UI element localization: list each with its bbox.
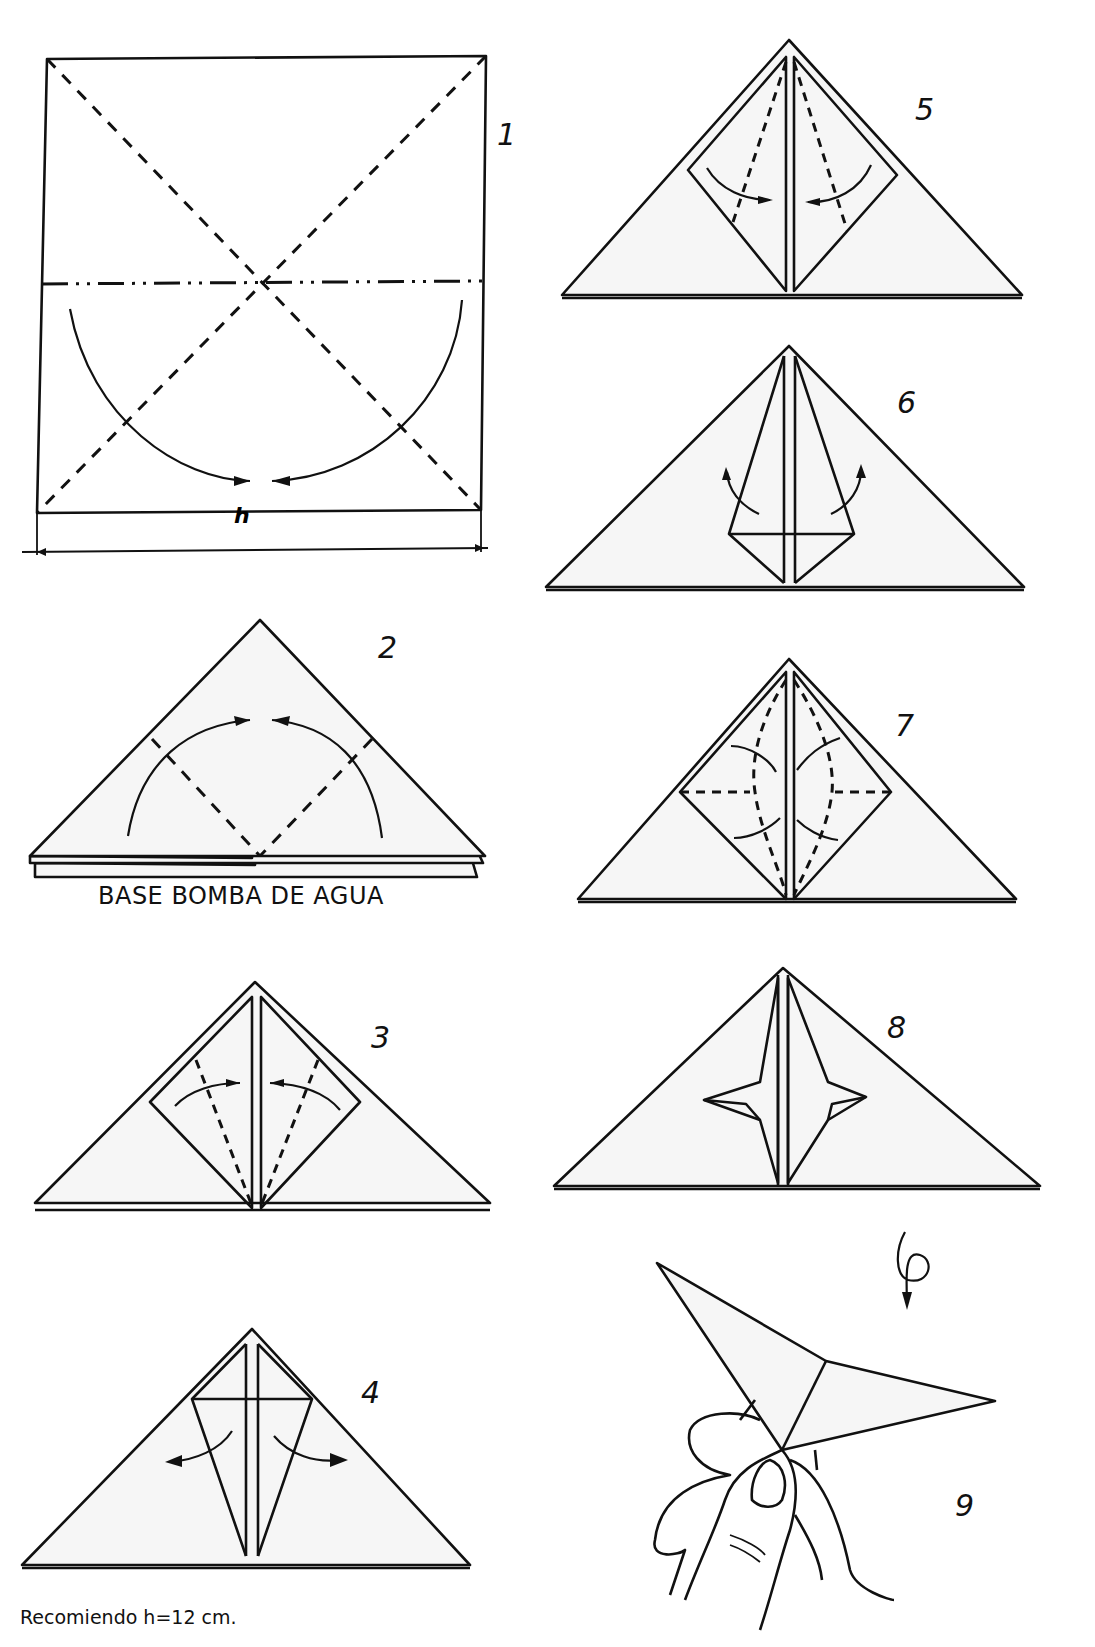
step-number-3: 3 [371,1020,390,1055]
step-number-9: 9 [955,1488,974,1523]
step-number-2: 2 [378,630,397,665]
origami-diagram [0,0,1095,1647]
step-1-square [22,56,488,556]
step-3-diamond-fold [35,982,490,1210]
step-8-result [554,968,1040,1189]
step-number-4: 4 [361,1375,380,1410]
recommendation-note: Recomiendo h=12 cm. [20,1606,237,1628]
step-7-squash [578,659,1016,902]
dimension-label-h: h [234,503,250,528]
step-2-waterbomb-base [30,620,485,877]
turn-over-icon [898,1232,929,1310]
step-5-diamond [562,40,1022,298]
step-number-8: 8 [887,1010,906,1045]
step-number-5: 5 [915,92,934,127]
step-6-kite [546,346,1024,590]
step-number-6: 6 [897,385,916,420]
step-9-held-model [654,1263,995,1630]
base-name-caption: BASE BOMBA DE AGUA [98,882,384,910]
step-4-unfold [22,1329,470,1568]
step-number-7: 7 [895,708,914,743]
step-number-1: 1 [497,117,516,152]
